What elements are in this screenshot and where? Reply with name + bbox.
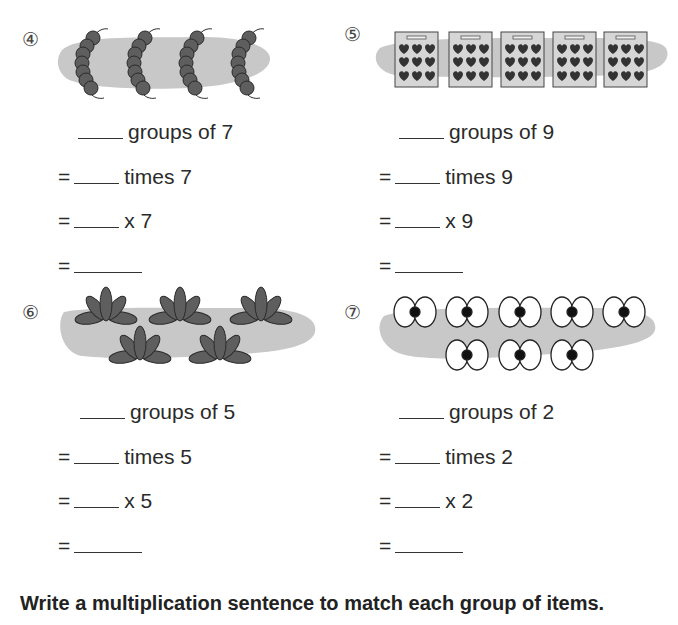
line-product: = — [379, 534, 468, 558]
line-groups-of: groups of 7 — [74, 120, 233, 144]
plant-illustration — [0, 270, 340, 390]
answer-blank[interactable] — [78, 137, 123, 139]
answer-blank[interactable] — [74, 506, 119, 508]
instruction-text: Write a multiplication sentence to match… — [20, 592, 604, 615]
heart-card-icon — [553, 32, 596, 87]
heart-card-icon — [449, 32, 492, 87]
line-groups-of: groups of 9 — [395, 120, 554, 144]
line-multiply: =x 5 — [58, 489, 152, 513]
answer-blank[interactable] — [395, 182, 440, 184]
answer-blank[interactable] — [395, 551, 463, 553]
answer-blank[interactable] — [395, 506, 440, 508]
answer-blank[interactable] — [399, 417, 444, 419]
line-multiply: =x 9 — [379, 209, 473, 233]
answer-blank[interactable] — [74, 226, 119, 228]
line-times: =times 5 — [58, 445, 192, 469]
plant-icon — [229, 287, 292, 326]
answer-blank[interactable] — [74, 551, 142, 553]
line-times: =times 2 — [379, 445, 513, 469]
answer-blank[interactable] — [74, 462, 119, 464]
plant-icon — [148, 287, 211, 326]
heart-card-icon — [501, 32, 544, 87]
line-groups-of: groups of 5 — [76, 400, 235, 424]
line-product: = — [58, 534, 147, 558]
caterpillar-illustration — [0, 0, 340, 110]
answer-blank[interactable] — [395, 226, 440, 228]
line-times: =times 7 — [58, 165, 192, 189]
answer-blank[interactable] — [399, 137, 444, 139]
eyes-illustration — [340, 270, 678, 390]
plant-icon — [74, 287, 137, 326]
answer-blank[interactable] — [74, 182, 119, 184]
answer-blank[interactable] — [80, 417, 125, 419]
heart-card-illustration — [340, 0, 678, 110]
answer-blank[interactable] — [395, 462, 440, 464]
line-multiply: =x 7 — [58, 209, 152, 233]
line-times: =times 9 — [379, 165, 513, 189]
heart-card-icon — [604, 32, 647, 87]
line-multiply: =x 2 — [379, 489, 473, 513]
heart-card-icon — [395, 32, 438, 87]
line-groups-of: groups of 2 — [395, 400, 554, 424]
